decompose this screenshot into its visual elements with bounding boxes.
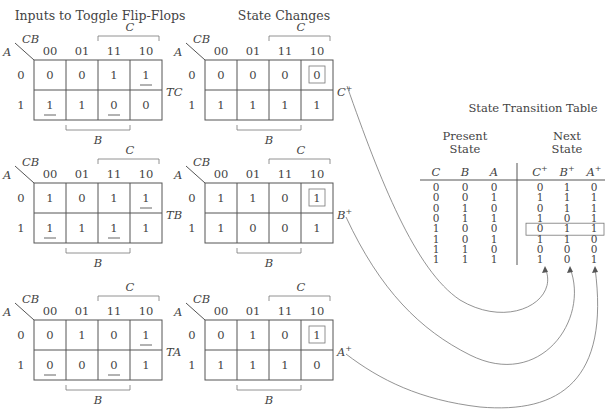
kmap-cell-value: 1	[46, 221, 53, 235]
kmap-cell-value: 1	[78, 328, 85, 342]
kmap-cell-value: 0	[46, 68, 53, 82]
kmap-col-header: 00	[43, 44, 58, 58]
diagram-canvas: Inputs to Toggle Flip-Flops State Change…	[0, 0, 605, 417]
c-bracket	[269, 159, 330, 164]
c-bracket	[269, 296, 330, 301]
kmap-cell-value: 0	[110, 358, 117, 372]
present-state-header: Present	[443, 129, 488, 143]
kmap-cell-value: 0	[142, 98, 149, 112]
table-column-header: A+	[585, 164, 601, 179]
kmap-cell-value: 0	[281, 221, 288, 235]
kmap-cell-value: 1	[217, 98, 224, 112]
kmap-cell-value: 1	[46, 191, 53, 205]
kmap-corner-a: A	[2, 168, 11, 182]
kmap-cell-value: 0	[217, 68, 224, 82]
kmap-col-header: 10	[310, 44, 325, 58]
kmap-cell-value: 1	[142, 221, 149, 235]
c-bracket-label: C	[297, 20, 306, 34]
table-column-header: A	[489, 165, 498, 179]
kmap-cell-value: 1	[46, 98, 53, 112]
b-bracket-label: B	[93, 133, 102, 147]
kmap-corner-a: A	[173, 168, 182, 182]
state-kmap-a-plus: CBA0001111001CB01011110A+	[173, 280, 352, 407]
kmap-col-header: 11	[107, 167, 122, 181]
toggle-maps-title: Inputs to Toggle Flip-Flops	[15, 8, 186, 23]
kmap-cell-value: 1	[313, 191, 320, 205]
kmap-cell-value: 1	[110, 221, 117, 235]
table-cell: 1	[537, 253, 544, 265]
kmap-row-header: 1	[188, 221, 195, 235]
kmap-col-header: 10	[139, 304, 154, 318]
b-bracket	[66, 125, 130, 130]
toggle-kmap-tb: CBA0001111001CB10111111TB	[2, 143, 182, 270]
kmap-cell-value: 0	[281, 328, 288, 342]
kmap-cell-value: 1	[217, 358, 224, 372]
kmap-row-header: 1	[188, 98, 195, 112]
kmap-col-header: 00	[43, 304, 58, 318]
kmap-row-header: 1	[17, 98, 24, 112]
c-bracket-label: C	[297, 280, 306, 294]
kmap-row-header: 1	[17, 358, 24, 372]
kmap-col-header: 10	[310, 167, 325, 181]
table-cell: 1	[591, 253, 598, 265]
kmap-function-label: TB	[166, 208, 182, 222]
state-kmap-c-plus: CBA0001111001CB00001111C+	[173, 20, 353, 147]
table-column-header: C	[432, 165, 441, 179]
kmap-col-header: 11	[278, 44, 293, 58]
kmap-cell-value: 1	[249, 328, 256, 342]
kmap-col-header: 10	[139, 167, 154, 181]
kmap-cell-value: 1	[313, 328, 320, 342]
kmap-cell-value: 1	[78, 98, 85, 112]
kmap-cell-value: 1	[249, 358, 256, 372]
c-bracket	[98, 36, 159, 41]
c-bracket	[98, 159, 159, 164]
kmap-corner-a: A	[173, 305, 182, 319]
b-bracket-label: B	[93, 256, 102, 270]
kmap-cell-value: 0	[313, 358, 320, 372]
arrowhead-c-plus	[542, 266, 548, 273]
kmap-group: CBA0001111001CB00111100TCCBA0001111001CB…	[2, 20, 353, 407]
kmap-cell-value: 1	[249, 98, 256, 112]
kmap-col-header: 01	[246, 167, 261, 181]
c-bracket-label: C	[126, 20, 135, 34]
kmap-cell-value: 0	[281, 68, 288, 82]
kmap-cell-value: 0	[46, 328, 53, 342]
connector-c-plus	[347, 86, 548, 312]
b-bracket	[237, 385, 301, 390]
kmap-cell-value: 0	[78, 358, 85, 372]
toggle-kmap-tc: CBA0001111001CB00111100TC	[2, 20, 183, 147]
kmap-col-header: 11	[278, 167, 293, 181]
kmap-cell-value: 0	[110, 328, 117, 342]
b-bracket-label: B	[264, 256, 273, 270]
kmap-cell-value: 1	[142, 358, 149, 372]
kmap-row-header: 0	[17, 328, 24, 342]
kmap-col-header: 01	[246, 44, 261, 58]
kmap-row-header: 0	[17, 191, 24, 205]
state-changes-title: State Changes	[238, 8, 330, 23]
kmap-col-header: 11	[278, 304, 293, 318]
kmap-function-label: TC	[166, 85, 183, 99]
table-cell: 1	[491, 253, 498, 265]
kmap-corner-a: A	[2, 45, 11, 59]
kmap-cell-value: 0	[78, 191, 85, 205]
kmap-col-header: 10	[139, 44, 154, 58]
kmap-col-header: 11	[107, 304, 122, 318]
kmap-cell-value: 0	[46, 358, 53, 372]
kmap-row-header: 0	[188, 328, 195, 342]
b-bracket	[66, 248, 130, 253]
kmap-row-header: 0	[188, 191, 195, 205]
kmap-cell-value: 1	[281, 358, 288, 372]
state-kmap-b-plus: CBA0001111001CB11011001B+	[173, 143, 352, 270]
kmap-function-label: TA	[166, 345, 181, 359]
kmap-cell-value: 1	[281, 98, 288, 112]
kmap-corner-cb: CB	[193, 32, 210, 46]
b-bracket-label: B	[93, 393, 102, 407]
kmap-cell-value: 0	[249, 221, 256, 235]
kmap-cell-value: 1	[313, 98, 320, 112]
b-bracket-label: B	[264, 393, 273, 407]
kmap-row-header: 1	[17, 221, 24, 235]
table-column-header: C+	[532, 164, 548, 179]
connector-a-plus	[346, 268, 598, 408]
kmap-corner-cb: CB	[22, 32, 39, 46]
kmap-cell-value: 1	[142, 68, 149, 82]
